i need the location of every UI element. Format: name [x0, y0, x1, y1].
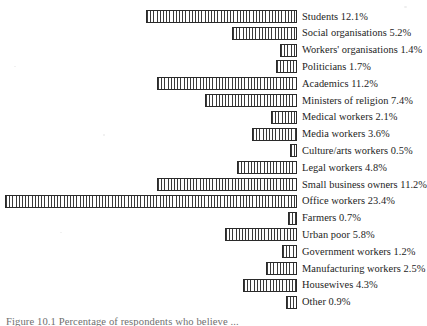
- bar-row: Social organisations 5.2%: [0, 27, 424, 44]
- bar-row: Media workers 3.6%: [0, 128, 424, 145]
- bar-fill: [146, 10, 297, 23]
- bar-fill: [282, 245, 297, 258]
- bar-fill: [237, 161, 297, 174]
- bar-fill: [232, 27, 297, 40]
- bar-label: Urban poor 5.8%: [302, 228, 375, 242]
- bar-fill: [252, 128, 297, 141]
- bar-row: Legal workers 4.8%: [0, 161, 424, 178]
- bar-label: Government workers 1.2%: [302, 245, 415, 259]
- bar-legal-workers: [237, 161, 297, 174]
- bar-fill: [276, 60, 297, 73]
- bar-label: Farmers 0.7%: [302, 211, 361, 225]
- bar-row: Medical workers 2.1%: [0, 111, 424, 128]
- bar-urban-poor: [225, 228, 297, 241]
- bar-medical-workers: [271, 111, 297, 124]
- bar-label: Housewives 4.3%: [302, 278, 378, 292]
- bar-fill: [271, 111, 297, 124]
- bar-row: Students 12.1%: [0, 10, 424, 27]
- bar-fill: [205, 94, 297, 107]
- bar-small-business-owners: [157, 178, 297, 191]
- bar-row: Academics 11.2%: [0, 77, 424, 94]
- bar-label: Office workers 23.4%: [302, 194, 395, 208]
- bar-label: Academics 11.2%: [302, 77, 378, 91]
- bar-row: Housewives 4.3%: [0, 279, 424, 296]
- bar-label: Students 12.1%: [302, 10, 368, 24]
- bar-label: Medical workers 2.1%: [302, 110, 397, 124]
- bar-label: Manufacturing workers 2.5%: [302, 262, 425, 276]
- bar-farmers: [288, 212, 297, 225]
- bar-fill: [266, 262, 297, 275]
- bar-label: Other 0.9%: [302, 295, 350, 309]
- bar-workers-organisations: [280, 44, 297, 57]
- bar-fill: [5, 195, 297, 208]
- bar-label: Legal workers 4.8%: [302, 161, 387, 175]
- bar-row: Other 0.9%: [0, 296, 424, 313]
- bar-housewives: [243, 279, 297, 292]
- bar-social-organisations: [232, 27, 297, 40]
- bar-label: Ministers of religion 7.4%: [302, 94, 413, 108]
- bar-fill: [286, 296, 297, 309]
- bar-media-workers: [252, 128, 297, 141]
- bar-row: Workers' organisations 1.4%: [0, 44, 424, 61]
- bar-row: Politicians 1.7%: [0, 60, 424, 77]
- bar-academics: [157, 77, 297, 90]
- bar-fill: [243, 279, 297, 292]
- bar-row: Manufacturing workers 2.5%: [0, 262, 424, 279]
- bar-fill: [225, 228, 297, 241]
- scan-speckle: [404, 6, 407, 8]
- bar-label: Social organisations 5.2%: [302, 26, 411, 40]
- bar-fill: [157, 178, 297, 191]
- bar-other: [286, 296, 297, 309]
- bar-fill: [290, 144, 297, 157]
- figure-caption: Figure 10.1 Percentage of respondents wh…: [6, 316, 239, 326]
- bar-row: Ministers of religion 7.4%: [0, 94, 424, 111]
- bar-label: Politicians 1.7%: [302, 60, 371, 74]
- bar-label: Media workers 3.6%: [302, 127, 390, 141]
- bar-label: Small business owners 11.2%: [302, 178, 427, 192]
- bar-row: Government workers 1.2%: [0, 245, 424, 262]
- bar-label: Workers' organisations 1.4%: [302, 43, 422, 57]
- bar-row: Farmers 0.7%: [0, 212, 424, 229]
- bar-culture-arts-workers: [290, 144, 297, 157]
- bar-students: [146, 10, 297, 23]
- bar-manufacturing-workers: [266, 262, 297, 275]
- bar-fill: [280, 44, 297, 57]
- bar-fill: [157, 77, 297, 90]
- bar-row: Urban poor 5.8%: [0, 228, 424, 245]
- bar-politicians: [276, 60, 297, 73]
- bar-office-workers: [5, 195, 297, 208]
- bar-government-workers: [282, 245, 297, 258]
- bar-row: Office workers 23.4%: [0, 195, 424, 212]
- bar-label: Culture/arts workers 0.5%: [302, 144, 413, 158]
- bar-row: Culture/arts workers 0.5%: [0, 144, 424, 161]
- bar-fill: [288, 212, 297, 225]
- bar-row: Small business owners 11.2%: [0, 178, 424, 195]
- bar-ministers-of-religion: [205, 94, 297, 107]
